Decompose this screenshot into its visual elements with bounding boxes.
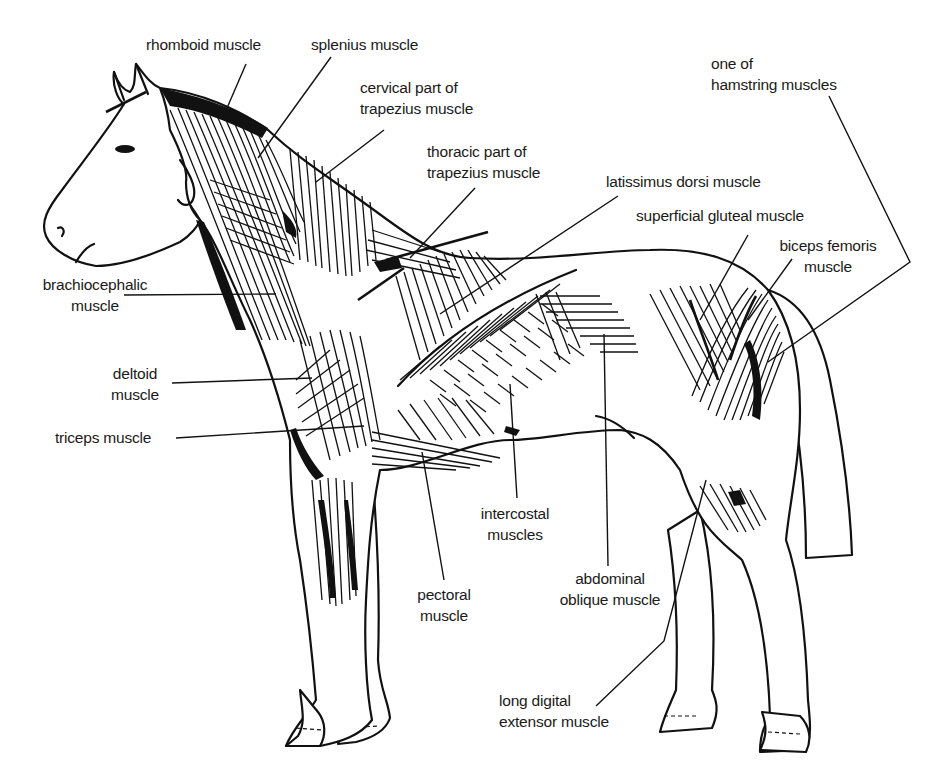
label-text: latissimus dorsi muscle	[606, 171, 761, 192]
label-cervical-trapezius: cervical part of trapezius muscle	[360, 77, 473, 119]
label-deltoid: deltoid muscle	[100, 363, 170, 405]
label-text: thoracic part of	[427, 141, 540, 162]
label-text: muscle	[100, 384, 170, 405]
eye-icon	[115, 145, 135, 153]
label-text: pectoral	[404, 584, 484, 605]
label-rhomboid-muscle: rhomboid muscle	[146, 34, 261, 55]
label-text: brachiocephalic	[30, 274, 160, 295]
label-long-digital-extensor: long digital extensor muscle	[499, 690, 609, 732]
label-abdominal-oblique: abdominal oblique muscle	[540, 568, 680, 610]
label-triceps: triceps muscle	[55, 427, 151, 448]
label-splenius-muscle: splenius muscle	[311, 34, 418, 55]
label-text: rhomboid muscle	[146, 34, 261, 55]
label-text: biceps femoris	[768, 235, 888, 256]
label-pectoral: pectoral muscle	[404, 584, 484, 626]
label-brachiocephalic: brachiocephalic muscle	[30, 274, 160, 316]
label-text: muscle	[768, 256, 888, 277]
label-latissimus-dorsi: latissimus dorsi muscle	[606, 171, 761, 192]
label-text: intercostal	[465, 503, 565, 524]
label-text: trapezius muscle	[427, 162, 540, 183]
label-text: superficial gluteal muscle	[636, 205, 804, 226]
label-text: extensor muscle	[499, 711, 609, 732]
label-hamstring-muscles: one of hamstring muscles	[711, 53, 837, 95]
label-text: muscles	[465, 524, 565, 545]
label-text: splenius muscle	[311, 34, 418, 55]
label-text: cervical part of	[360, 77, 473, 98]
label-text: triceps muscle	[55, 427, 151, 448]
label-superficial-gluteal: superficial gluteal muscle	[636, 205, 804, 226]
leader-pectoral	[422, 452, 444, 580]
label-text: long digital	[499, 690, 609, 711]
label-text: deltoid	[100, 363, 170, 384]
label-text: muscle	[404, 605, 484, 626]
label-text: one of	[711, 53, 837, 74]
leader-rhomboid	[227, 64, 246, 108]
label-text: oblique muscle	[540, 589, 680, 610]
label-thoracic-trapezius: thoracic part of trapezius muscle	[427, 141, 540, 183]
label-intercostal: intercostal muscles	[465, 503, 565, 545]
label-text: trapezius muscle	[360, 98, 473, 119]
label-text: hamstring muscles	[711, 74, 837, 95]
leader-thoracic-trapezius	[410, 188, 475, 258]
leader-cervical-trapezius	[316, 130, 384, 182]
label-biceps-femoris: biceps femoris muscle	[768, 235, 888, 277]
label-text: muscle	[30, 295, 160, 316]
leader-splenius	[258, 57, 331, 158]
label-text: abdominal	[540, 568, 680, 589]
